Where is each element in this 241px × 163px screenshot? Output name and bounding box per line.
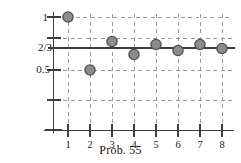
data-point (107, 36, 117, 46)
data-point (151, 39, 161, 49)
figure-caption: Prob. 55 (0, 144, 241, 157)
data-point (173, 45, 183, 55)
figure-prob-55: 1 2/3 0.5 1 2 3 4 5 6 7 8 Prob. 55 (0, 0, 241, 163)
data-point (195, 39, 205, 49)
data-point (217, 43, 227, 53)
scatter-plot: 1 2/3 0.5 1 2 3 4 5 6 7 8 (0, 0, 241, 163)
horizontal-gridlines (48, 17, 233, 100)
data-points (63, 12, 227, 75)
y-tick-label-two-thirds: 2/3 (38, 42, 52, 53)
data-point (63, 12, 73, 22)
y-tick-label-1: 1 (43, 12, 49, 23)
data-point (129, 49, 139, 59)
data-point (85, 65, 95, 75)
y-tick-label-0-5: 0.5 (36, 64, 50, 75)
